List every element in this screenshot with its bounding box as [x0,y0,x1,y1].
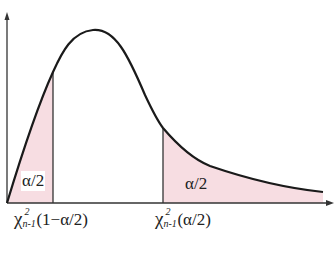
superscript: 2 [24,206,29,217]
x-axis-arrow-icon [326,200,334,206]
argument: (1−α/2) [36,210,88,229]
y-axis-arrow-icon [5,12,10,20]
left-critical-value-label: χ2n-1(1−α/2) [14,208,88,230]
superscript: 2 [165,206,170,217]
argument: (α/2) [177,210,210,229]
left-tail-label: α/2 [21,171,45,191]
right-tail-label: α/2 [184,174,208,194]
chi-symbol: χ [155,208,163,229]
right-critical-value-label: χ2n-1(α/2) [155,208,211,230]
subscript: n-1 [163,218,176,229]
subscript: n-1 [22,218,35,229]
chi-symbol: χ [14,208,22,229]
